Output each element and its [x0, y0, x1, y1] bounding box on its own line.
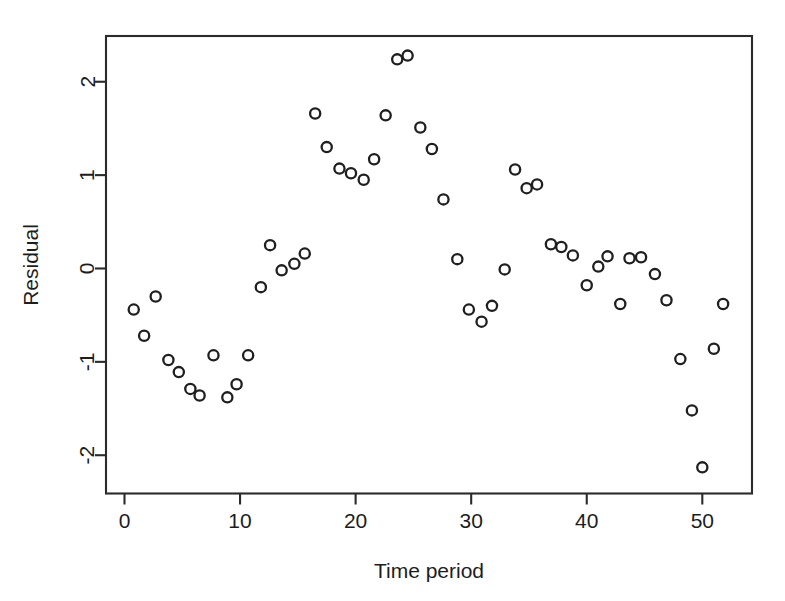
x-tick-label: 10 — [228, 509, 251, 532]
data-point — [546, 239, 556, 249]
data-point — [568, 250, 578, 260]
data-point — [624, 253, 634, 263]
data-point — [615, 299, 625, 309]
data-point — [675, 354, 685, 364]
data-point — [464, 304, 474, 314]
scatter-data-points — [129, 51, 729, 473]
data-point — [139, 331, 149, 341]
data-point — [709, 344, 719, 354]
data-point — [661, 295, 671, 305]
y-tick-label: -1 — [76, 353, 99, 372]
data-point — [334, 163, 344, 173]
data-point — [718, 299, 728, 309]
residual-scatter-figure: -2-1012 01020304050 Time period Residual — [0, 0, 785, 601]
y-tick-label: -2 — [76, 446, 99, 465]
data-point — [582, 280, 592, 290]
data-point — [222, 392, 232, 402]
data-point — [427, 144, 437, 154]
data-point — [636, 252, 646, 262]
y-tick-label: 2 — [76, 76, 99, 88]
plot-canvas: -2-1012 01020304050 Time period Residual — [0, 0, 785, 601]
x-tick-label: 0 — [119, 509, 131, 532]
data-point — [697, 462, 707, 472]
y-axis-tick-labels: -2-1012 — [76, 76, 99, 465]
data-point — [185, 384, 195, 394]
data-point — [195, 390, 205, 400]
y-axis-title: Residual — [19, 224, 42, 306]
x-axis-tick-labels: 01020304050 — [119, 509, 714, 532]
x-tick-label: 30 — [460, 509, 483, 532]
x-axis-title: Time period — [374, 559, 484, 582]
data-point — [163, 355, 173, 365]
data-point — [243, 350, 253, 360]
data-point — [687, 405, 697, 415]
data-point — [265, 240, 275, 250]
x-tick-label: 20 — [344, 509, 367, 532]
data-point — [381, 110, 391, 120]
data-point — [522, 183, 532, 193]
data-point — [369, 154, 379, 164]
data-point — [289, 259, 299, 269]
data-point — [277, 265, 287, 275]
data-point — [359, 175, 369, 185]
data-point — [602, 251, 612, 261]
data-point — [500, 264, 510, 274]
x-tick-label: 40 — [575, 509, 598, 532]
data-point — [322, 142, 332, 152]
x-tick-label: 50 — [691, 509, 714, 532]
data-point — [310, 108, 320, 118]
y-tick-label: 1 — [76, 169, 99, 181]
data-point — [510, 164, 520, 174]
data-point — [415, 122, 425, 132]
data-point — [532, 179, 542, 189]
y-tick-label: 0 — [76, 263, 99, 275]
data-point — [346, 168, 356, 178]
data-point — [650, 269, 660, 279]
data-point — [392, 54, 402, 64]
data-point — [487, 301, 497, 311]
data-point — [452, 254, 462, 264]
data-point — [300, 248, 310, 258]
data-point — [476, 317, 486, 327]
data-point — [129, 304, 139, 314]
data-point — [256, 282, 266, 292]
x-axis-ticks — [124, 494, 702, 505]
data-point — [438, 194, 448, 204]
data-point — [231, 379, 241, 389]
plot-box-frame — [106, 36, 752, 494]
data-point — [174, 367, 184, 377]
data-point — [403, 51, 413, 61]
data-point — [556, 242, 566, 252]
data-point — [593, 262, 603, 272]
data-point — [151, 291, 161, 301]
data-point — [208, 350, 218, 360]
